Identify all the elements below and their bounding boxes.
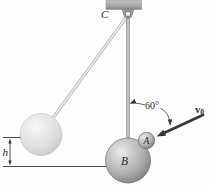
- ball-a-label: A: [143, 136, 150, 146]
- pendulum-impact-figure: h B A C 60° v0: [0, 0, 209, 186]
- velocity-arrowhead: [157, 130, 167, 137]
- figure-canvas: h B A C 60° v0: [0, 0, 209, 186]
- pivot-pin: [125, 11, 131, 17]
- velocity-arrow: [157, 115, 205, 137]
- height-dimension-arrow: [8, 139, 11, 166]
- ball-b-label: B: [121, 155, 128, 167]
- velocity-label-subscript: 0: [200, 108, 204, 117]
- angle-leader-left: [130, 103, 145, 105]
- height-label: h: [3, 146, 9, 158]
- ball-b-swung: [20, 114, 62, 156]
- velocity-label: v0: [195, 104, 204, 117]
- pendulum-rod-swung: [42, 15, 128, 133]
- angle-label: 60°: [145, 100, 159, 111]
- pivot-label: C: [101, 8, 109, 20]
- angle-leader-right: [161, 108, 171, 125]
- ceiling-support: [106, 0, 142, 10]
